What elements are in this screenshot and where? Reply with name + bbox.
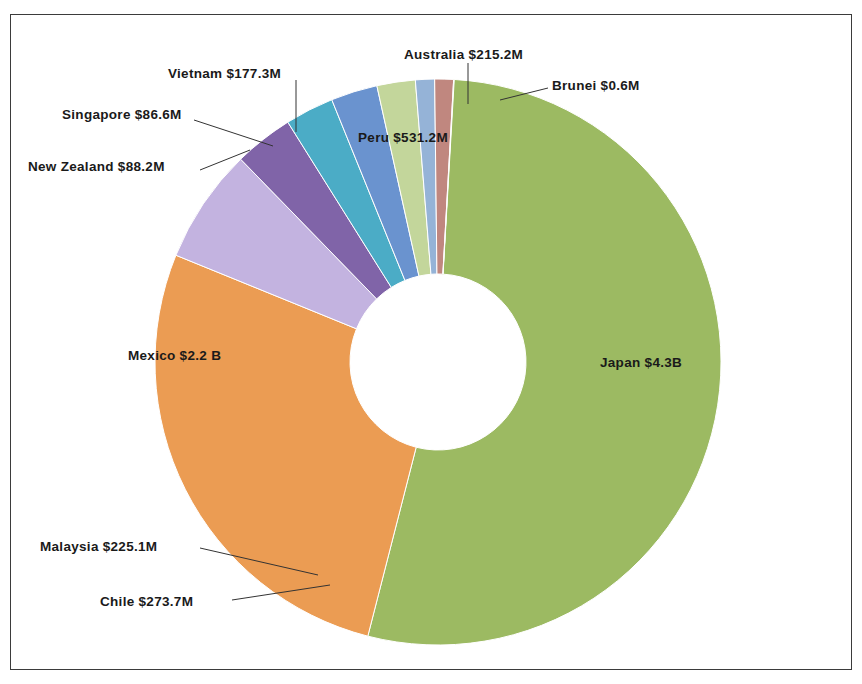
slice-label-peru: Peru $531.2M [358, 130, 448, 147]
slice-label-japan: Japan $4.3B [600, 355, 682, 370]
leader-line-singapore [194, 120, 273, 146]
slice-label-australia: Australia $215.2M [404, 47, 523, 62]
slice-label-new-zealand: New Zealand $88.2M [28, 159, 165, 174]
chart-page: Japan $4.3BMexico $2.2 BPeru $531.2MChil… [0, 0, 862, 684]
pie-slice-mexico[interactable] [155, 255, 416, 636]
slice-label-brunei: Brunei $0.6M [552, 78, 640, 93]
slice-label-mexico: Mexico $2.2 B [128, 348, 221, 363]
slice-label-vietnam: Vietnam $177.3M [168, 66, 281, 81]
slice-label-chile: Chile $273.7M [100, 594, 193, 609]
slice-label-malaysia: Malaysia $225.1M [40, 539, 157, 554]
doughnut-chart [0, 0, 862, 684]
slice-label-singapore: Singapore $86.6M [62, 107, 182, 122]
